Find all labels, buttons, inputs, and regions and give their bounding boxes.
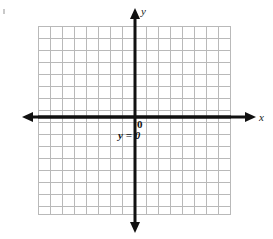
- x-axis-arrow-right: [245, 112, 256, 122]
- grid-lines: [38, 26, 231, 215]
- x-axis-label: x: [259, 112, 264, 123]
- equation-label: y = 0: [118, 130, 140, 141]
- coordinate-plane-figure: x y 0 y = 0: [0, 0, 273, 239]
- y-axis-arrow-down: [130, 222, 140, 233]
- scan-artifact-mark: [3, 9, 5, 14]
- x-axis-arrow-left: [22, 112, 33, 122]
- y-axis-label: y: [141, 6, 146, 17]
- graph-grid: [38, 26, 231, 215]
- y-axis-arrow-up: [130, 8, 140, 19]
